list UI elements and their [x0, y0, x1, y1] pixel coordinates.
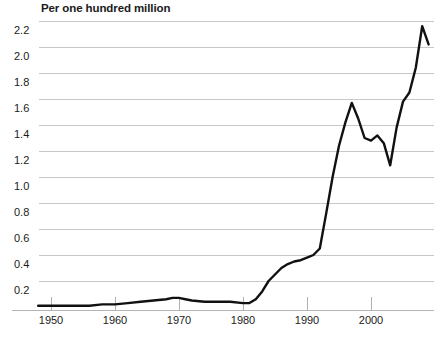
- series-line-path: [38, 26, 428, 306]
- chart-figure: Per one hundred million 0.20.40.60.81.01…: [0, 0, 440, 340]
- plot-area: 0.20.40.60.81.01.21.41.61.82.02.2 195019…: [0, 0, 440, 340]
- data-series-svg: [0, 0, 440, 340]
